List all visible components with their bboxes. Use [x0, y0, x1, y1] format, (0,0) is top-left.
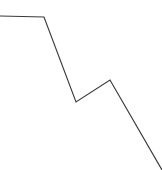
line-chart-figure: Unlabeled polyline: flat plateau at top-… — [0, 0, 162, 170]
chart-canvas — [0, 0, 162, 170]
chart-background — [0, 0, 162, 170]
